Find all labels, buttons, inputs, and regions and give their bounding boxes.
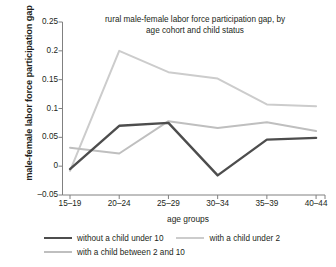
legend-label: with a child under 2: [209, 234, 280, 243]
x-axis-tick-2: 25–29: [141, 199, 195, 208]
y-axis-tick-1: 0: [32, 161, 58, 170]
x-axis-tick-5: 40–44: [289, 199, 336, 208]
x-axis-tick-0: 15–19: [43, 199, 97, 208]
legend-row-2: with a child between 2 and 10: [44, 245, 324, 259]
legend-label: with a child between 2 and 10: [77, 248, 185, 257]
x-axis-tick-1: 20–24: [92, 199, 146, 208]
legend-swatch-icon: [44, 237, 72, 239]
legend-item-with-a-child-between-2-and-10[interactable]: with a child between 2 and 10: [44, 248, 185, 257]
legend-swatch-icon: [44, 251, 72, 253]
y-axis-tick-5: 0.2: [32, 46, 58, 55]
y-axis-tick-4: 0.15: [32, 75, 58, 84]
chart-legend: without a child under 10 with a child un…: [44, 231, 324, 259]
chart-figure: male-female labor force participation ga…: [0, 0, 336, 267]
x-axis-tick-4: 35–39: [240, 199, 294, 208]
x-axis-tick-3: 30–34: [191, 199, 245, 208]
legend-item-with-a-child-under-2[interactable]: with a child under 2: [176, 234, 280, 243]
y-axis-tick-6: 0.25: [32, 17, 58, 26]
y-axis-tick-2: 0.05: [32, 132, 58, 141]
legend-label: without a child under 10: [77, 234, 163, 243]
legend-swatch-icon: [176, 237, 204, 239]
y-axis-tick-3: 0.1: [32, 104, 58, 113]
legend-item-without-a-child-under-10[interactable]: without a child under 10: [44, 234, 163, 243]
x-axis-label: age groups: [62, 214, 314, 224]
y-axis-tick-0: –0.05: [32, 190, 58, 199]
legend-row-1: without a child under 10 with a child un…: [44, 231, 324, 245]
